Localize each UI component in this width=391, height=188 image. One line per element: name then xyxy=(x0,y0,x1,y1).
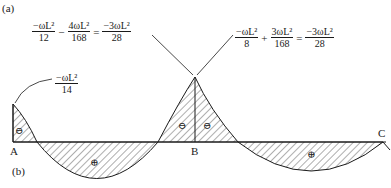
fraction: 3ωL²168 xyxy=(271,26,294,49)
negative-sign-icon: ⊖ xyxy=(178,121,186,131)
positive-sign-icon: ⊕ xyxy=(90,158,98,168)
negative-sign-icon: ⊖ xyxy=(203,121,211,131)
support-b-label: B xyxy=(191,146,198,157)
part-b-label: (b) xyxy=(12,166,25,177)
fraction: −3ωL²28 xyxy=(305,26,333,49)
leader-left-eq xyxy=(152,35,193,75)
part-a-label: (a) xyxy=(2,3,14,14)
fraction: 4ωL²168 xyxy=(68,20,91,43)
fraction: −ωL²8 xyxy=(235,26,258,49)
leader-right-eq xyxy=(197,35,233,75)
negative-sign-icon: ⊖ xyxy=(15,126,23,136)
equation-right: −ωL²8 + 3ωL²168 = −3ωL²28 xyxy=(235,26,334,49)
positive-sign-icon: ⊕ xyxy=(307,150,315,160)
fraction: −ωL²14 xyxy=(55,72,78,95)
end-moment-label: −ωL²14 xyxy=(55,72,78,95)
support-c-label: C xyxy=(378,128,385,139)
negative-region-a xyxy=(13,104,37,142)
leader-end-moment xyxy=(15,79,52,103)
equation-left: −ωL²12 − 4ωL²168 = −3ωL²28 xyxy=(32,20,131,43)
support-a-label: A xyxy=(10,146,18,157)
fraction: −ωL²12 xyxy=(32,20,55,43)
curve-tail-c xyxy=(383,142,390,150)
fraction: −3ωL²28 xyxy=(102,20,130,43)
negative-region-b xyxy=(158,77,238,142)
